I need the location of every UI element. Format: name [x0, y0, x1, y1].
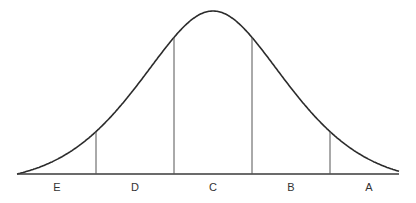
region-label-d: D — [131, 181, 139, 193]
bell-curve-diagram: E D C B A — [0, 0, 416, 203]
region-label-a: A — [365, 181, 373, 193]
region-label-e: E — [53, 181, 60, 193]
region-label-c: C — [209, 181, 217, 193]
region-label-b: B — [287, 181, 294, 193]
bell-curve — [17, 11, 399, 174]
